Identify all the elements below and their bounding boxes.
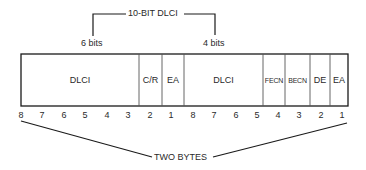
bytes-right-line bbox=[213, 123, 347, 157]
bracket-left-line bbox=[93, 14, 126, 36]
field-de: DE bbox=[310, 54, 330, 106]
bit-number: 7 bbox=[37, 110, 47, 120]
field-ea-1: EA bbox=[162, 54, 184, 106]
bit-number: 8 bbox=[188, 110, 198, 120]
bit-number: 5 bbox=[80, 110, 90, 120]
bit-number: 3 bbox=[123, 110, 133, 120]
bracket-right-line bbox=[184, 14, 215, 35]
field-becn: BECN bbox=[285, 54, 310, 106]
two-bytes-label: TWO BYTES bbox=[154, 152, 207, 162]
bytes-left-line bbox=[21, 121, 152, 157]
field-fecn: FECN bbox=[263, 54, 285, 106]
field-ea-2: EA bbox=[330, 54, 348, 106]
field-cr: C/R bbox=[139, 54, 162, 106]
bit-number: 6 bbox=[231, 110, 241, 120]
bit-number: 1 bbox=[337, 110, 347, 120]
six-bits-label: 6 bits bbox=[81, 38, 103, 48]
bit-number: 3 bbox=[294, 110, 304, 120]
ten-bit-dlci-label: 10-BIT DLCI bbox=[128, 8, 178, 18]
bit-number: 4 bbox=[273, 110, 283, 120]
bit-number: 5 bbox=[252, 110, 262, 120]
four-bits-label: 4 bits bbox=[203, 38, 225, 48]
bit-number: 8 bbox=[16, 110, 26, 120]
field-dlci-low: DLCI bbox=[184, 54, 263, 106]
bit-number: 1 bbox=[166, 110, 176, 120]
bit-number: 4 bbox=[102, 110, 112, 120]
bit-number: 2 bbox=[316, 110, 326, 120]
field-dlci-high: DLCI bbox=[21, 54, 139, 106]
bit-number: 7 bbox=[209, 110, 219, 120]
bit-number: 2 bbox=[145, 110, 155, 120]
bit-number: 6 bbox=[59, 110, 69, 120]
